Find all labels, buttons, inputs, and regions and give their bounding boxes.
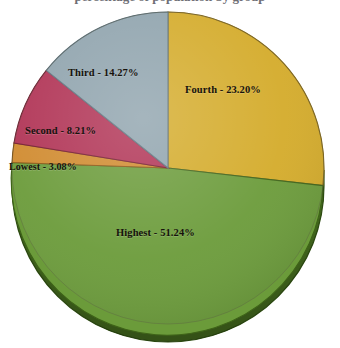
- pie-chart-screenshot: percentage of population by group: [0, 0, 340, 348]
- pie-chart-figure: Fourth - 23.20% Highest - 51.24% Lowest …: [0, 0, 340, 348]
- pie-label-highest: Highest - 51.24%: [116, 227, 195, 238]
- pie-label-second: Second - 8.21%: [25, 125, 96, 136]
- pie-label-fourth: Fourth - 23.20%: [185, 84, 261, 95]
- pie-label-lowest: Lowest - 3.08%: [9, 161, 77, 172]
- pie-label-third: Third - 14.27%: [68, 67, 139, 78]
- pie-chart-svg: [0, 0, 340, 348]
